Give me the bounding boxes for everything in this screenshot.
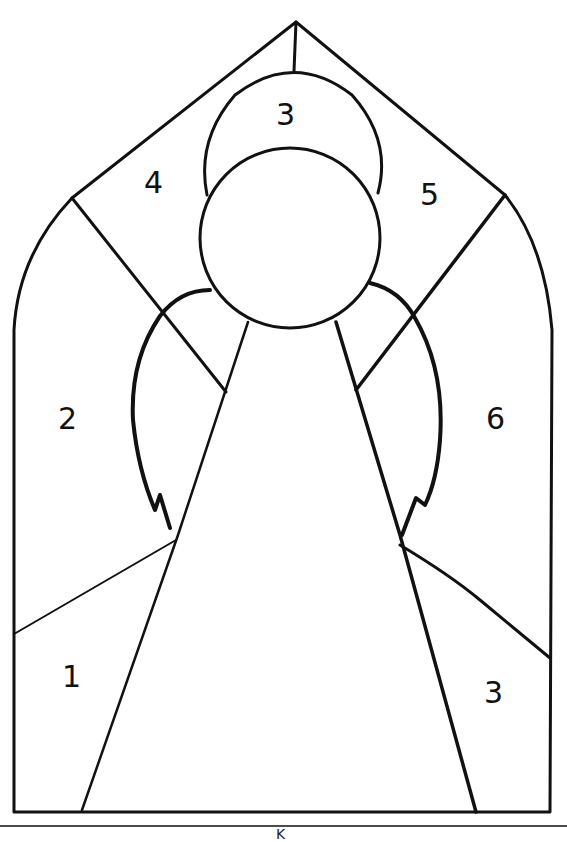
window-frame (14, 22, 552, 812)
lower-left-line (14, 540, 176, 634)
robe-left-edge (82, 322, 248, 810)
left-wing (133, 290, 210, 528)
region-number-lower-right: 3 (484, 678, 503, 708)
right-wing (370, 283, 441, 535)
left-diagonal (72, 198, 226, 392)
head-outline (200, 148, 380, 328)
robe-right-edge (336, 322, 476, 812)
lower-right-line (400, 545, 550, 658)
apex-line (294, 22, 296, 71)
region-number-right-wing: 6 (486, 404, 505, 434)
region-number-left-wing: 2 (58, 404, 77, 434)
region-number-lower-left: 1 (62, 662, 81, 692)
region-number-halo: 3 (276, 100, 295, 130)
region-number-upper-right: 5 (420, 180, 439, 210)
footer-text: K (276, 826, 285, 842)
region-number-upper-left: 4 (144, 168, 163, 198)
